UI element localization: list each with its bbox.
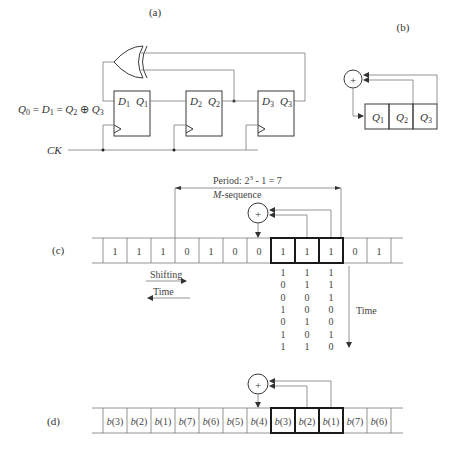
svg-text:Q1: Q1 xyxy=(372,111,384,125)
feedback-arrow-2 xyxy=(270,386,307,408)
svg-text:D1: D1 xyxy=(117,95,130,109)
state-bit: 0 xyxy=(281,292,286,303)
msequence-label: M-sequence xyxy=(212,189,262,200)
sequence-cell: 0 xyxy=(233,246,238,257)
sequence-cell: 1 xyxy=(113,246,118,257)
state-bit: 1 xyxy=(329,292,334,303)
sequence-cell: b(6) xyxy=(371,416,388,428)
svg-text:Q2: Q2 xyxy=(396,111,408,125)
sequence-cell: 1 xyxy=(161,246,166,257)
state-bit: 0 xyxy=(329,316,334,327)
sequence-cell: 1 xyxy=(377,246,382,257)
state-bit: 1 xyxy=(281,329,286,340)
state-bit: 0 xyxy=(329,341,334,352)
panel-b: (b) + Q1 Q2 Q3 xyxy=(344,21,437,129)
feedback-arrow-3 xyxy=(270,381,331,408)
time-left-label: Time xyxy=(153,286,174,297)
sequence-cell: b(7) xyxy=(179,416,196,428)
state-bit: 0 xyxy=(281,279,286,290)
sequence-cell: b(1) xyxy=(155,416,172,428)
state-bit: 1 xyxy=(305,341,310,352)
feedback-arrow-3 xyxy=(270,210,331,238)
lfsr-diagram: (a) D1 Q1 D2 Q2 D3 Q3 xyxy=(0,0,458,450)
period-label: Period: 23 - 1 = 7 xyxy=(213,174,282,186)
sequence-cell: b(2) xyxy=(131,416,148,428)
sequence-cell: 0 xyxy=(353,246,358,257)
sequence-cell: b(3) xyxy=(107,416,124,428)
state-bit: 1 xyxy=(281,341,286,352)
state-bit: 0 xyxy=(329,304,334,315)
adder-icon: + xyxy=(248,203,268,223)
adder-icon: + xyxy=(344,70,362,88)
feedback-q3-arrow xyxy=(364,75,437,104)
xor-output-wire xyxy=(103,62,114,101)
state-bit: 1 xyxy=(305,316,310,327)
state-bit: 1 xyxy=(329,279,334,290)
svg-text:+: + xyxy=(255,379,261,391)
sequence-cell: 1 xyxy=(209,246,214,257)
register-b: Q1 Q2 Q3 xyxy=(365,104,437,129)
feedback-wire-q3 xyxy=(141,53,305,101)
state-bit: 1 xyxy=(329,267,334,278)
panel-c: (c) Period: 23 - 1 = 7 M-sequence + 1110… xyxy=(52,174,403,352)
state-bit: 0 xyxy=(281,316,286,327)
panel-b-label: (b) xyxy=(397,21,410,34)
sequence-cell: 0 xyxy=(185,246,190,257)
state-bit: 1 xyxy=(281,304,286,315)
clock-wire xyxy=(68,125,258,150)
sequence-strip-c: 111010011101 xyxy=(92,238,403,263)
xor-gate-icon xyxy=(114,46,147,78)
svg-text:D2: D2 xyxy=(189,95,202,109)
adder-icon: + xyxy=(248,374,268,394)
flip-flop-2: D2 Q2 xyxy=(186,91,222,136)
panel-d: (d) + b(3)b(2)b(1)b(7)b(6)b(5)b(4)b(3)b(… xyxy=(47,374,403,433)
sequence-cell: b(3) xyxy=(275,416,292,428)
sequence-cell: 1 xyxy=(329,246,334,257)
flip-flop-1: D1 Q1 xyxy=(114,91,150,136)
panel-a-label: (a) xyxy=(149,6,162,19)
svg-text:Q3: Q3 xyxy=(420,111,432,125)
adder-output-arrow xyxy=(353,88,363,116)
sequence-cell: b(1) xyxy=(323,416,340,428)
sequence-cell: b(7) xyxy=(347,416,364,428)
state-bit: 0 xyxy=(305,329,310,340)
sequence-cell: 0 xyxy=(257,246,262,257)
svg-text:+: + xyxy=(255,208,261,220)
time-down-label: Time xyxy=(356,305,377,316)
sequence-cell: 1 xyxy=(305,246,310,257)
feedback-q2-arrow xyxy=(364,80,413,104)
sequence-cell: b(4) xyxy=(251,416,268,428)
clock-label: CK xyxy=(47,144,62,156)
state-table: 111011001100010101110 xyxy=(281,267,334,352)
panel-a: (a) D1 Q1 D2 Q2 D3 Q3 xyxy=(18,6,305,156)
svg-text:Q2: Q2 xyxy=(208,95,220,109)
state-bit: 0 xyxy=(305,304,310,315)
flip-flop-3: D3 Q3 xyxy=(258,91,294,136)
sequence-cell: b(2) xyxy=(299,416,316,428)
panel-d-label: (d) xyxy=(47,415,60,428)
sequence-cell: 1 xyxy=(281,246,286,257)
panel-c-label: (c) xyxy=(52,244,65,257)
sequence-strip-d: b(3)b(2)b(1)b(7)b(6)b(5)b(4)b(3)b(2)b(1)… xyxy=(92,408,403,433)
svg-text:D3: D3 xyxy=(261,95,274,109)
state-bit: 1 xyxy=(305,267,310,278)
state-bit: 0 xyxy=(305,292,310,303)
state-bit: 1 xyxy=(281,267,286,278)
feedback-arrow-2 xyxy=(270,215,307,238)
sequence-cell: 1 xyxy=(137,246,142,257)
feedback-equation: Q0 = D1 = Q2 ⊕ Q3 xyxy=(18,103,104,117)
svg-text:Q1: Q1 xyxy=(136,95,148,109)
sequence-cell: b(5) xyxy=(227,416,244,428)
state-bit: 1 xyxy=(305,279,310,290)
shifting-label: Shifting xyxy=(150,269,182,280)
feedback-wire-q2 xyxy=(141,70,234,101)
svg-text:+: + xyxy=(350,74,356,86)
sequence-cell: b(6) xyxy=(203,416,220,428)
svg-text:Q3: Q3 xyxy=(280,95,292,109)
state-bit: 1 xyxy=(329,329,334,340)
